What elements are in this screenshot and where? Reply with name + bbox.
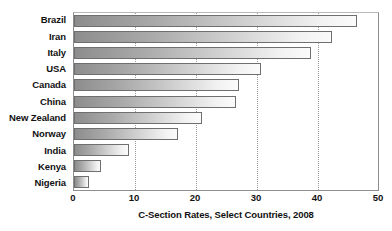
tick-label: 30 xyxy=(251,193,262,203)
category-label: Iran xyxy=(0,28,70,44)
category-label: New Zealand xyxy=(0,110,70,126)
category-label: Norway xyxy=(0,126,70,142)
bar xyxy=(74,31,332,43)
bar xyxy=(74,96,236,108)
plot-area xyxy=(73,12,379,191)
bar xyxy=(74,63,261,75)
bar-row xyxy=(74,126,378,142)
bar-row xyxy=(74,142,378,158)
category-label: China xyxy=(0,93,70,109)
bar-row xyxy=(74,61,378,77)
bar xyxy=(74,160,101,172)
bar xyxy=(74,15,357,27)
bar xyxy=(74,128,178,140)
category-label: Brazil xyxy=(0,12,70,28)
category-label: Nigeria xyxy=(0,175,70,191)
category-label: Canada xyxy=(0,77,70,93)
bar-row xyxy=(74,158,378,174)
tick-label: 20 xyxy=(190,193,201,203)
tick-label: 50 xyxy=(373,193,384,203)
bar xyxy=(74,176,89,188)
bar-row xyxy=(74,174,378,190)
bar-row xyxy=(74,77,378,93)
category-label: USA xyxy=(0,61,70,77)
category-axis: BrazilIranItalyUSACanadaChinaNew Zealand… xyxy=(0,12,70,191)
category-label: Italy xyxy=(0,45,70,61)
bar-row xyxy=(74,93,378,109)
value-axis: 01020304050 xyxy=(73,191,379,207)
bar xyxy=(74,47,311,59)
axis-title: C-Section Rates, Select Countries, 2008 xyxy=(73,209,379,220)
bar-series xyxy=(74,13,378,190)
bar-row xyxy=(74,110,378,126)
bar-row xyxy=(74,13,378,29)
bar xyxy=(74,144,129,156)
bar-chart: BrazilIranItalyUSACanadaChinaNew Zealand… xyxy=(0,0,392,231)
tick-label: 40 xyxy=(312,193,323,203)
bar xyxy=(74,112,202,124)
category-label: Kenya xyxy=(0,158,70,174)
bar-row xyxy=(74,29,378,45)
category-label: India xyxy=(0,142,70,158)
bar-row xyxy=(74,45,378,61)
tick-label: 0 xyxy=(70,193,75,203)
tick-label: 10 xyxy=(129,193,140,203)
bar xyxy=(74,79,239,91)
